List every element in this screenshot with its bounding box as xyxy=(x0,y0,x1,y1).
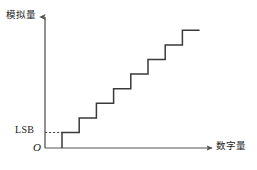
x-axis-title: 数字量 xyxy=(216,141,246,151)
staircase-curve xyxy=(62,30,200,148)
y-axis-title: 模拟量 xyxy=(6,10,36,20)
origin-label: O xyxy=(33,142,41,153)
lsb-tick-label: LSB xyxy=(15,125,34,135)
dac-staircase-figure: 模拟量 数字量 LSB O xyxy=(0,0,257,170)
